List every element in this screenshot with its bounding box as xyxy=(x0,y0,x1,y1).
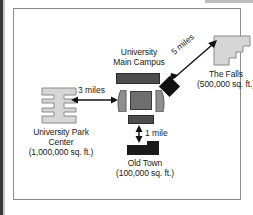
scan-gutter-bar-secondary xyxy=(3,0,5,215)
distance-label-1-mile: 1 mile xyxy=(145,128,168,138)
label-line-1: Old Town xyxy=(102,158,188,168)
distance-arrow-3-miles xyxy=(71,95,118,105)
the-falls-shape xyxy=(213,35,251,66)
campus-central-building xyxy=(130,91,152,110)
old-town-shape xyxy=(127,141,159,155)
label-line-1: The Falls xyxy=(186,69,253,79)
map-frame: University Main Campus The Falls (500,00… xyxy=(13,8,241,200)
label-area: (500,000 sq. ft.) xyxy=(186,79,253,89)
label-university-park-center: University Park Center (1,000,000 sq. ft… xyxy=(23,127,99,157)
campus-south-building xyxy=(128,115,154,124)
distance-label-3-miles: 3 miles xyxy=(78,85,105,95)
map-figure: University Main Campus The Falls (500,00… xyxy=(0,0,253,215)
label-the-falls: The Falls (500,000 sq. ft.) xyxy=(186,69,253,89)
label-university-main-campus: University Main Campus xyxy=(102,47,176,67)
label-area: (100,000 sq. ft.) xyxy=(102,168,188,178)
label-line-2: Main Campus xyxy=(102,57,176,67)
label-line-2: Center xyxy=(23,137,99,147)
label-area: (1,000,000 sq. ft.) xyxy=(23,147,99,157)
campus-north-building xyxy=(116,73,160,84)
distance-arrow-1-mile xyxy=(134,125,144,143)
label-old-town: Old Town (100,000 sq. ft.) xyxy=(102,158,188,178)
university-park-center-shape xyxy=(41,87,77,124)
label-line-1: University Park xyxy=(23,127,99,137)
campus-east-building xyxy=(155,90,165,112)
label-line-1: University xyxy=(102,47,176,57)
campus-west-building xyxy=(117,90,127,112)
scan-top-strip xyxy=(205,0,253,3)
